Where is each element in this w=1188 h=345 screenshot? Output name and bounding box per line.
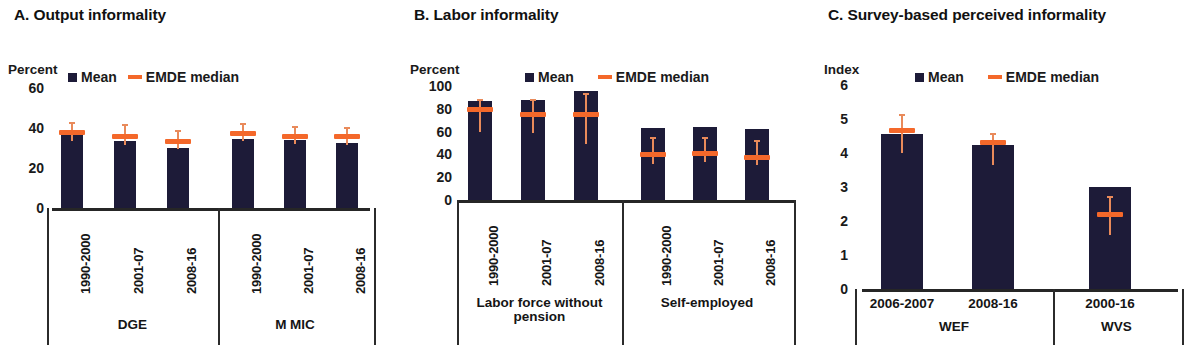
y-axis-tick-3: 3 (810, 180, 848, 194)
legend-item-emde-median: EMDE median (988, 69, 1099, 85)
legend-item-emde-median: EMDE median (128, 69, 239, 85)
bar-a-4 (284, 140, 306, 208)
y-axis-unit-label: Index (824, 62, 859, 77)
category-label-a-1: 2001-07 (131, 248, 146, 294)
y-axis-tick-20: 20 (400, 170, 452, 184)
chart-panel-c: C. Survey-based perceived informalityInd… (810, 0, 1188, 345)
legend-label-mean: Mean (81, 69, 117, 85)
error-bar-cap-top-0 (69, 122, 75, 124)
error-bar-cap-top-1 (990, 133, 996, 135)
category-label-a-5: 2008-16 (353, 248, 368, 294)
mean-swatch-icon (525, 73, 534, 82)
legend-label-emde-median: EMDE median (146, 69, 239, 85)
legend-label-emde-median: EMDE median (1006, 69, 1099, 85)
category-label-a-3: 1990-2000 (249, 234, 264, 294)
error-bar-cap-top-3 (240, 123, 246, 125)
bar-c-0 (881, 134, 923, 289)
y-axis-tick-4: 4 (810, 146, 848, 160)
mean-swatch-icon (68, 73, 77, 82)
group-frame-a (47, 208, 376, 345)
group-label-a-1: M MIC (275, 318, 315, 332)
legend-item-mean: Mean (915, 69, 964, 85)
bar-a-1 (114, 141, 136, 208)
y-axis-tick-60: 60 (400, 125, 452, 139)
median-marker-b-2 (573, 112, 599, 117)
y-axis-tick-0: 0 (0, 201, 44, 215)
category-label-b-3: 1990-2000 (659, 226, 674, 286)
median-marker-c-2 (1097, 212, 1123, 217)
median-marker-b-0 (467, 107, 493, 112)
y-axis-tick-40: 40 (400, 147, 452, 161)
chart-legend: MeanEMDE median (915, 69, 1099, 85)
bar-a-0 (61, 134, 83, 208)
median-marker-a-3 (230, 131, 256, 136)
error-bar-cap-top-4 (292, 126, 298, 128)
y-axis-tick-60: 60 (0, 81, 44, 95)
error-bar-b-5 (756, 140, 758, 165)
y-axis-tick-80: 80 (400, 102, 452, 116)
error-bar-cap-top-1 (530, 99, 536, 101)
y-axis-unit-label: Percent (8, 62, 58, 77)
category-label-a-4: 2001-07 (301, 248, 316, 294)
bar-a-5 (336, 143, 358, 208)
category-label-a-0: 1990-2000 (78, 234, 93, 294)
median-marker-a-5 (334, 134, 360, 139)
panel-title-c: C. Survey-based perceived informality (828, 6, 1106, 24)
error-bar-b-2 (585, 93, 587, 144)
group-divider-0 (1053, 289, 1055, 345)
category-label-b-4: 2001-07 (711, 240, 726, 286)
bar-c-1 (972, 145, 1014, 290)
figure-informality-measures: A. Output informalityPercent6040200MeanE… (0, 0, 1188, 345)
category-label-b-5: 2008-16 (763, 240, 778, 286)
y-axis-tick-6: 6 (810, 78, 848, 92)
median-marker-c-0 (889, 128, 915, 133)
y-axis-tick-20: 20 (0, 161, 44, 175)
group-label-c-1: WVS (1101, 320, 1132, 334)
median-swatch-icon (128, 75, 142, 79)
error-bar-c-0 (901, 114, 903, 153)
bar-a-2 (167, 148, 189, 208)
y-axis-tick-40: 40 (0, 121, 44, 135)
legend-item-emde-median: EMDE median (598, 69, 709, 85)
chart-panel-a: A. Output informalityPercent6040200MeanE… (0, 0, 400, 345)
group-label-a-0: DGE (118, 318, 147, 332)
error-bar-cap-top-1 (122, 124, 128, 126)
category-label-a-2: 2008-16 (184, 248, 199, 294)
y-axis-tick-100: 100 (400, 79, 452, 93)
error-bar-cap-top-5 (754, 140, 760, 142)
category-label-c-2: 2000-16 (1085, 296, 1135, 311)
y-axis-tick-5: 5 (810, 112, 848, 126)
median-marker-c-1 (980, 140, 1006, 145)
median-marker-a-2 (165, 139, 191, 144)
error-bar-cap-top-3 (650, 137, 656, 139)
median-swatch-icon (988, 75, 1002, 79)
group-divider-0 (218, 208, 220, 345)
error-bar-cap-top-0 (899, 114, 905, 116)
error-bar-cap-top-0 (477, 99, 483, 101)
category-label-c-0: 2006-2007 (870, 296, 935, 311)
error-bar-b-0 (479, 99, 481, 132)
median-swatch-icon (598, 75, 612, 79)
legend-label-mean: Mean (928, 69, 964, 85)
error-bar-cap-top-5 (344, 127, 350, 129)
legend-label-emde-median: EMDE median (616, 69, 709, 85)
y-axis-tick-2: 2 (810, 214, 848, 228)
median-marker-b-1 (520, 112, 546, 117)
chart-legend: MeanEMDE median (68, 69, 239, 85)
group-label-b-0: Labor force without pension (455, 296, 625, 324)
median-marker-b-4 (692, 151, 718, 156)
chart-panel-b: B. Labor informalityPercent100806040200M… (400, 0, 810, 345)
legend-label-mean: Mean (538, 69, 574, 85)
y-axis-unit-label: Percent (410, 62, 460, 77)
panel-title-a: A. Output informality (14, 6, 166, 24)
error-bar-c-1 (992, 133, 994, 165)
category-label-b-1: 2001-07 (539, 240, 554, 286)
group-label-b-1: Self-employed (661, 296, 753, 310)
legend-item-mean: Mean (68, 69, 117, 85)
mean-swatch-icon (915, 73, 924, 82)
error-bar-cap-top-2 (583, 93, 589, 95)
group-label-c-0: WEF (939, 320, 969, 334)
median-marker-b-3 (640, 152, 666, 157)
error-bar-cap-top-2 (175, 130, 181, 132)
chart-legend: MeanEMDE median (525, 69, 709, 85)
